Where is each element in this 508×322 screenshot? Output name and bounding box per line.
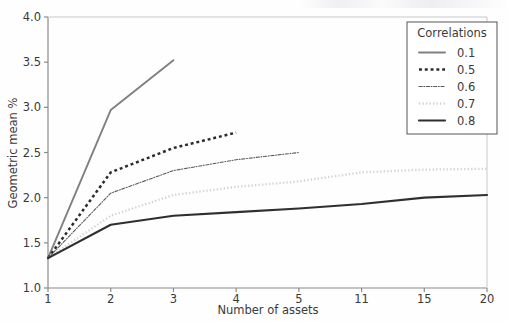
y-tick-label: 2.0 — [23, 191, 41, 205]
x-tick-label: 2 — [107, 292, 114, 306]
x-axis-label: Number of assets — [217, 303, 318, 317]
chart-legend: Correlations0.10.50.60.70.8 — [407, 22, 497, 134]
x-tick-label: 20 — [480, 292, 495, 306]
y-tick-label: 3.0 — [23, 100, 41, 114]
legend-label-0.5: 0.5 — [457, 63, 475, 77]
y-axis-label: Geometric mean % — [6, 97, 20, 208]
legend-title: Correlations — [417, 26, 486, 40]
x-tick-label: 11 — [354, 292, 369, 306]
y-tick-label: 3.5 — [23, 55, 41, 69]
legend-label-0.1: 0.1 — [457, 46, 475, 60]
y-tick-label: 2.5 — [23, 146, 41, 160]
x-tick-label: 15 — [417, 292, 432, 306]
x-tick-label: 1 — [44, 292, 51, 306]
y-tick-label: 1.5 — [23, 236, 41, 250]
y-tick-label: 4.0 — [23, 10, 41, 24]
legend-label-0.6: 0.6 — [457, 80, 475, 94]
legend-label-0.7: 0.7 — [457, 97, 475, 111]
legend-label-0.8: 0.8 — [457, 114, 475, 128]
line-chart: 1.01.52.02.53.03.54.0 12345111520 Number… — [0, 0, 508, 322]
y-tick-label: 1.0 — [23, 281, 41, 295]
x-tick-label: 3 — [170, 292, 177, 306]
chart-figure: 1.01.52.02.53.03.54.0 12345111520 Number… — [0, 0, 508, 322]
